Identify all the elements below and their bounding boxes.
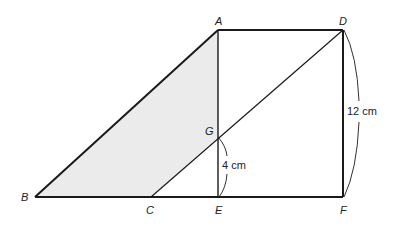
measure-label-ge: 4 cm (222, 159, 246, 171)
geometry-diagram: 4 cm 12 cm A D B C E F G (0, 0, 400, 228)
measure-arc-df-top (344, 30, 359, 101)
point-label-f: F (340, 204, 348, 216)
measure-arc-df-bottom (344, 122, 359, 197)
point-label-a: A (214, 15, 222, 27)
measure-arc-ge-top (218, 137, 227, 156)
point-label-d: D (339, 15, 347, 27)
measure-label-df: 12 cm (347, 105, 377, 117)
point-label-g: G (205, 125, 214, 137)
point-label-b: B (21, 191, 28, 203)
measure-arc-ge-bottom (219, 174, 227, 197)
point-label-c: C (146, 204, 154, 216)
point-label-e: E (215, 204, 223, 216)
